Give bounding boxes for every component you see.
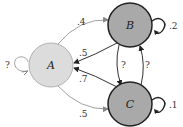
edge-label-c-a: .7 (79, 74, 88, 84)
self-loop-a: ? (5, 57, 28, 75)
node-b: B (108, 3, 152, 47)
edge-label-b-a: .5 (79, 48, 88, 58)
node-a: A (29, 43, 73, 87)
node-c: C (108, 82, 152, 126)
edge-a-to-b: .4 (58, 17, 108, 44)
edge-label-b-b: .2 (169, 21, 178, 31)
edge-b-to-c: ? (117, 45, 126, 85)
markov-chain-diagram: .4 .5 .7 .5 ? ? ? .2 .1 (0, 0, 183, 127)
self-loop-b: .2 (152, 19, 178, 35)
edge-a-to-c: .5 (58, 86, 108, 119)
edge-label-c-b: ? (145, 60, 150, 70)
edge-label-c-c: .1 (169, 100, 178, 110)
edge-label-a-a: ? (5, 60, 10, 70)
edge-c-to-a: .7 (74, 68, 117, 87)
edge-label-a-c: .5 (79, 109, 88, 119)
edge-label-b-c: ? (121, 60, 126, 70)
node-a-label: A (46, 59, 55, 72)
edge-label-a-b: .4 (77, 17, 86, 27)
self-loop-c: .1 (152, 98, 178, 114)
edge-b-to-a: .5 (74, 43, 117, 63)
node-b-label: B (125, 19, 134, 32)
edge-c-to-b: ? (140, 46, 150, 85)
node-c-label: C (126, 98, 135, 111)
